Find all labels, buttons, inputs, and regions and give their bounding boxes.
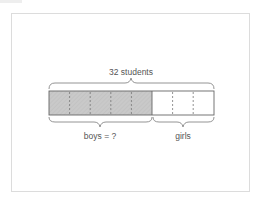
total-label: 32 students [109, 67, 153, 77]
tape-diagram: 32 students boys = ? girls [0, 0, 263, 205]
girls-brace [153, 117, 214, 127]
girls-label: girls [175, 131, 191, 141]
boys-label: boys = ? [84, 131, 117, 141]
total-brace [49, 78, 214, 89]
boys-segment [49, 91, 152, 115]
boys-brace [49, 117, 152, 127]
